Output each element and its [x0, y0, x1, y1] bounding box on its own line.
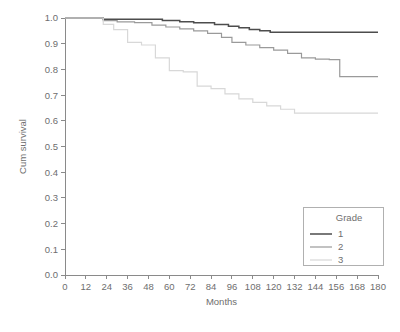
x-tick-label: 0	[62, 281, 67, 292]
x-tick-label: 84	[206, 281, 217, 292]
x-axis-title: Months	[206, 296, 237, 307]
x-tick-label: 48	[143, 281, 154, 292]
x-tick-label: 180	[370, 281, 386, 292]
x-tick-label: 36	[122, 281, 133, 292]
legend-label-grade-3: 3	[338, 254, 343, 265]
y-tick-label: 0.8	[45, 64, 58, 75]
x-tick-label: 24	[101, 281, 112, 292]
x-tick-label: 156	[328, 281, 344, 292]
x-tick-label: 132	[287, 281, 303, 292]
x-axis-group: 01224364860728496108120132144156168180 M…	[62, 275, 386, 307]
x-tick-label: 168	[349, 281, 365, 292]
x-tick-label: 144	[307, 281, 323, 292]
x-tick-label: 96	[227, 281, 238, 292]
y-tick-label: 0.1	[45, 244, 58, 255]
y-tick-label: 0.0	[45, 269, 58, 280]
y-tick-label: 0.5	[45, 141, 58, 152]
survival-curve-grade-2	[65, 18, 378, 77]
legend-entries: 123	[310, 228, 343, 265]
x-tick-label: 108	[245, 281, 261, 292]
x-tick-label: 72	[185, 281, 196, 292]
x-tick-label: 120	[266, 281, 282, 292]
y-axis-group: 0.00.10.20.30.40.50.60.70.80.91.0 Cum su…	[17, 12, 65, 280]
y-tick-label: 0.9	[45, 38, 58, 49]
y-tick-label: 0.3	[45, 192, 58, 203]
kaplan-meier-chart: 0.00.10.20.30.40.50.60.70.80.91.0 Cum su…	[0, 0, 400, 332]
survival-curves-group	[65, 18, 378, 113]
legend-label-grade-2: 2	[338, 241, 343, 252]
y-tick-label: 0.7	[45, 90, 58, 101]
legend-title: Grade	[336, 212, 362, 223]
y-tick-label: 0.4	[45, 167, 58, 178]
legend-label-grade-1: 1	[338, 228, 343, 239]
x-axis-ticks: 01224364860728496108120132144156168180	[62, 275, 386, 292]
y-tick-label: 0.6	[45, 115, 58, 126]
y-tick-label: 0.2	[45, 218, 58, 229]
y-axis-title: Cum survival	[17, 119, 28, 174]
x-tick-label: 12	[81, 281, 92, 292]
x-tick-label: 60	[164, 281, 175, 292]
y-axis-ticks: 0.00.10.20.30.40.50.60.70.80.91.0	[45, 12, 65, 280]
y-tick-label: 1.0	[45, 12, 58, 23]
legend: Grade 123	[303, 207, 383, 265]
survival-plot-svg: 0.00.10.20.30.40.50.60.70.80.91.0 Cum su…	[0, 0, 400, 332]
